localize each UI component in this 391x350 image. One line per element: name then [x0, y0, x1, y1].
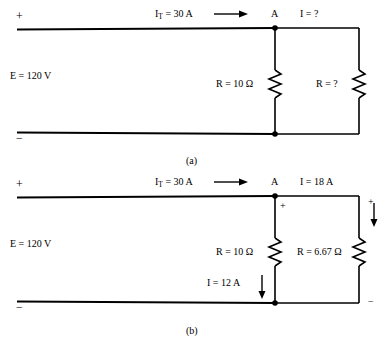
panel-a-bottom-node-dot: [272, 131, 278, 137]
panel-b-right-resistor-label: R = 6.67 Ω: [297, 246, 342, 257]
panel-a-middle-resistor-symbol: [269, 70, 281, 98]
panel-b-middle-branch-current-label: I = 12 A: [207, 277, 240, 288]
circuit-figure: + − E = 120 V IT = 30 A A I = ? R = 10 Ω…: [0, 0, 391, 350]
panel-a-branch-current-label: I = ?: [300, 8, 318, 19]
panel-b-right-branch-plus-sign: +: [368, 196, 374, 208]
panel-b-middle-branch-plus-sign: +: [280, 200, 286, 212]
panel-b-bottom-node-dot: [272, 300, 278, 306]
panel-b-source-plus-sign: +: [16, 178, 23, 190]
panel-b-middle-resistor-label: R = 10 Ω: [216, 246, 253, 257]
panel-b-right-resistor-symbol: [353, 238, 365, 266]
panel-a-right-resistor-label: R = ?: [316, 78, 338, 89]
panel-b-total-current-arrow-icon: [214, 179, 248, 186]
panel-a-middle-resistor-label: R = 10 Ω: [216, 78, 253, 89]
panel-b-voltage-label: E = 120 V: [10, 238, 51, 249]
panel-b-right-branch-minus-sign: −: [368, 296, 374, 308]
panel-a-right-resistor-symbol: [353, 70, 365, 98]
panel-b-top-wire: [17, 196, 275, 198]
panel-a-source-plus-sign: +: [16, 10, 23, 22]
panel-b-total-current-label: IT = 30 A: [155, 176, 193, 190]
panel-b-branch-current-label: I = 18 A: [300, 176, 333, 187]
panel-a-circuit: [17, 11, 365, 137]
panel-a-total-current-label: IT = 30 A: [155, 8, 193, 22]
panel-a-node-label: A: [271, 8, 278, 19]
panel-b-circuit: [17, 179, 378, 306]
panel-a-voltage-label: E = 120 V: [10, 70, 51, 81]
panel-b-caption: (b): [186, 325, 198, 336]
panel-b-middle-resistor-symbol: [269, 238, 281, 266]
circuit-diagram-canvas: [0, 0, 391, 350]
panel-a-top-wire: [17, 28, 275, 30]
panel-a-total-current-arrow-icon: [214, 11, 248, 18]
panel-b-middle-branch-current-arrow-icon: [259, 275, 266, 299]
panel-b-node-label: A: [271, 176, 278, 187]
panel-a-node-a-dot: [272, 25, 278, 31]
panel-b-total-current-value: = 30 A: [163, 176, 193, 187]
panel-a-source-minus-sign: −: [16, 132, 23, 144]
panel-a-bottom-wire: [17, 133, 275, 135]
panel-b-bottom-wire: [17, 302, 275, 304]
panel-b-node-a-dot: [272, 193, 278, 199]
panel-a-total-current-value: = 30 A: [163, 8, 193, 19]
panel-a-caption: (a): [186, 155, 197, 166]
panel-b-source-minus-sign: −: [16, 301, 23, 313]
